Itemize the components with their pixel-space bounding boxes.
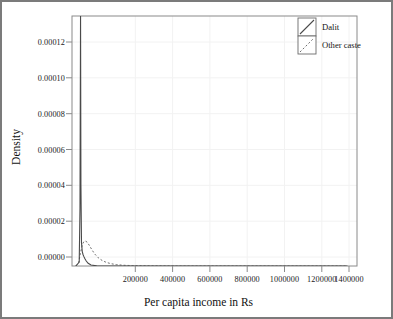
legend	[298, 18, 316, 54]
y-axis-ticks	[66, 42, 72, 257]
y-axis-title: Density	[10, 87, 22, 207]
x-tick-label-4: 1000000	[270, 275, 299, 284]
x-tick-label-6: 1400000	[334, 275, 363, 284]
figure-container: 0.00000 0.00002 0.00004 0.00006 0.00008 …	[0, 0, 393, 319]
y-tick-label-5: 0.00010	[10, 73, 65, 82]
y-tick-label-1: 0.00002	[10, 217, 65, 226]
x-tick-label-3: 800000	[235, 275, 260, 284]
legend-label-other-caste: Other caste	[322, 40, 361, 50]
x-tick-label-5: 1200000	[307, 275, 336, 284]
y-tick-label-6: 0.00012	[10, 38, 65, 47]
x-axis-title: Per capita income in Rs	[2, 296, 393, 308]
x-tick-label-0: 200000	[123, 275, 148, 284]
y-tick-label-0: 0.00000	[10, 253, 65, 262]
x-tick-label-1: 400000	[160, 275, 185, 284]
x-tick-label-2: 600000	[197, 275, 222, 284]
x-axis-ticks	[135, 266, 349, 272]
legend-label-dalit: Dalit	[322, 22, 339, 32]
